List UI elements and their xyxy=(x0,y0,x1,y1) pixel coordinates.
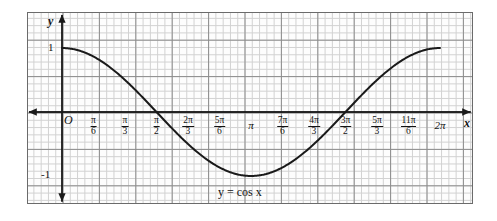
curve-equation-label: y = cos x xyxy=(218,186,262,198)
x-tick-label-8: 4π3 xyxy=(308,116,320,137)
x-tick-label-1: π6 xyxy=(90,116,97,137)
x-tick-label-5: 5π6 xyxy=(214,116,226,137)
x-tick-label-11: 11π6 xyxy=(401,116,417,137)
x-tick-label-10: 5π3 xyxy=(371,116,383,137)
x-tick-label-2: π3 xyxy=(122,116,129,137)
x-axis-label: x xyxy=(464,117,470,129)
x-tick-label-7: 7π6 xyxy=(277,116,289,137)
y-tick-label-1: 1 xyxy=(48,42,54,53)
y-axis-label: y xyxy=(48,15,53,27)
x-tick-label-6: π xyxy=(248,119,254,131)
cosine-graph-figure: y x O 1 -1 π6π3π22π35π6π7π64π33π25π311π6… xyxy=(0,0,497,221)
y-tick-label-minus1: -1 xyxy=(41,169,50,180)
x-tick-label-3: π2 xyxy=(153,116,160,137)
x-tick-label-12: 2π xyxy=(434,119,445,131)
origin-label: O xyxy=(64,114,73,126)
x-tick-label-4: 2π3 xyxy=(182,116,194,137)
x-tick-label-9: 3π2 xyxy=(340,116,352,137)
